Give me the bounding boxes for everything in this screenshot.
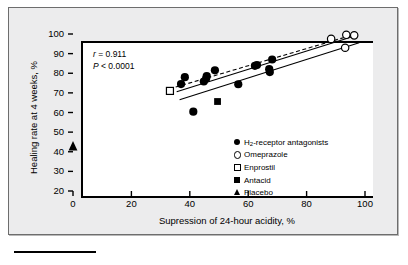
correlation-symbol: r xyxy=(93,49,96,59)
x-tick-label: 20 xyxy=(111,198,151,209)
pvalue-symbol: P xyxy=(93,61,99,71)
y-tick-label: 80 xyxy=(34,67,64,78)
point-filled-circle xyxy=(253,61,261,69)
upper-dashed-line xyxy=(169,34,354,89)
point-open-circle xyxy=(341,44,348,51)
y-tick-label: 60 xyxy=(34,107,64,118)
correlation-annotation: r = 0.911 xyxy=(93,49,126,59)
pvalue-annotation: P < 0.0001 xyxy=(93,61,134,71)
point-filled-circle xyxy=(234,80,242,88)
point-open-square xyxy=(166,87,173,94)
point-filled-triangle xyxy=(69,141,78,150)
figure-panel: Healing rate at 4 weeks, % r = 0.911 P <… xyxy=(8,7,398,235)
point-filled-circle xyxy=(177,80,185,88)
legend-item-label: H2-receptor antagonists xyxy=(244,138,328,147)
filled-square-icon-glyph xyxy=(234,177,240,183)
point-filled-square xyxy=(214,98,221,105)
legend-item[interactable]: Enprostil xyxy=(233,161,328,174)
y-tick-label: 70 xyxy=(34,87,64,98)
filled-square-icon xyxy=(233,174,244,187)
filled-circle-icon xyxy=(233,136,244,149)
open-circle-icon xyxy=(233,149,244,162)
legend-item[interactable]: H2-receptor antagonists xyxy=(233,136,328,149)
x-axis-label: Supression of 24-hour acidity, % xyxy=(81,215,373,226)
legend-item-label-rest: -receptor antagonists xyxy=(253,138,328,147)
point-filled-circle xyxy=(203,72,211,80)
legend-item-label: Placebo xyxy=(244,188,273,197)
point-filled-circle xyxy=(189,108,197,116)
x-tick-label: 100 xyxy=(345,198,385,209)
legend-item-label: Antacid xyxy=(244,176,271,185)
bottom-rule xyxy=(14,251,96,253)
point-filled-circle xyxy=(211,66,219,74)
point-open-circle xyxy=(343,31,350,38)
legend-item[interactable]: Omeprazole xyxy=(233,149,328,162)
y-tick-label: 90 xyxy=(34,48,64,59)
open-square-icon xyxy=(233,161,244,174)
point-filled-circle xyxy=(266,68,274,76)
x-tick-label: 60 xyxy=(228,198,268,209)
legend-item-label: Enprostil xyxy=(244,163,275,172)
figure-container: Healing rate at 4 weeks, % r = 0.911 P <… xyxy=(0,0,408,265)
y-tick-label: 40 xyxy=(34,146,64,157)
y-tick-label: 100 xyxy=(34,28,64,39)
correlation-value: = 0.911 xyxy=(98,49,126,59)
y-tick-label: 50 xyxy=(34,126,64,137)
legend: H2-receptor antagonistsOmeprazoleEnprost… xyxy=(233,136,328,199)
y-tick-label: 20 xyxy=(34,185,64,196)
y-tick-label: 30 xyxy=(34,165,64,176)
point-open-circle xyxy=(327,35,334,42)
legend-item[interactable]: Antacid xyxy=(233,174,328,187)
x-tick-label: 40 xyxy=(170,198,210,209)
open-circle-icon-glyph xyxy=(234,151,241,158)
filled-circle-icon-glyph xyxy=(234,139,240,145)
x-tick-label: 0 xyxy=(53,198,93,209)
legend-item-label: Omeprazole xyxy=(244,150,288,159)
pvalue-value: < 0.0001 xyxy=(101,61,134,71)
point-filled-circle xyxy=(268,55,276,63)
x-tick-label: 80 xyxy=(287,198,327,209)
point-filled-circle xyxy=(181,73,189,81)
open-square-icon-glyph xyxy=(234,164,241,171)
point-open-circle xyxy=(350,32,357,39)
filled-triangle-icon-glyph xyxy=(234,189,240,195)
